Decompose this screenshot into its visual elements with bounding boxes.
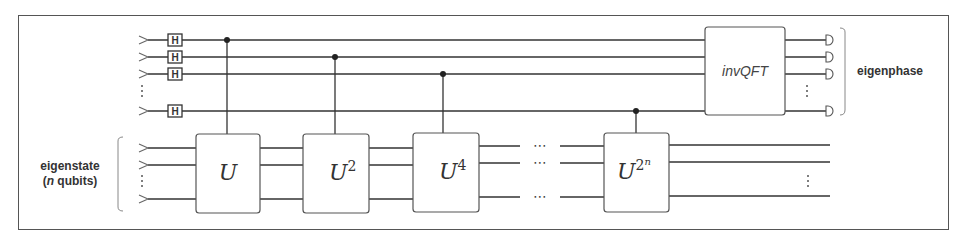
svg-text:H: H [171,35,178,46]
measure-icon [826,106,833,116]
svg-text:⋯: ⋯ [533,137,547,153]
hadamard-gates: H H H H [168,34,182,117]
input-triangle-icon [139,144,148,152]
svg-text:H: H [171,52,178,63]
measurement-icons [826,35,833,116]
measure-icon [826,35,833,45]
control-dot-1 [224,37,230,43]
svg-text:⋯: ⋯ [533,188,547,204]
hadamard-gate-3: H [168,68,182,80]
input-triangle-icon [139,36,148,44]
control-dot-3 [440,71,446,77]
input-triangle-icon [139,195,148,203]
input-triangle-icon [139,161,148,169]
eigenstate-label: eigenstate (n qubits) [20,159,120,189]
circuit-diagram: H H H H U U2 U4 U2n invQFT ⋯ ⋯ ⋯ [0,0,964,239]
control-dots [224,37,639,114]
hadamard-gate-2: H [168,51,182,63]
eigenphase-label: eigenphase [850,64,930,79]
input-triangle-icon [139,53,148,61]
input-triangle-icon [139,70,148,78]
svg-text:H: H [171,106,178,117]
measure-icon [826,52,833,62]
svg-text:H: H [171,69,178,80]
input-triangle-icon [139,107,148,115]
control-dot-2 [332,54,338,60]
eigenphase-brace-icon [840,28,845,115]
measure-icon [826,69,833,79]
hadamard-gate-1: H [168,34,182,46]
inverse-qft-label: invQFT [722,63,769,79]
input-state-icons [139,36,148,203]
svg-text:⋯: ⋯ [533,154,547,170]
hadamard-gate-n: H [168,105,182,117]
gate-u-label: U [219,160,239,185]
control-dot-n [633,108,639,114]
